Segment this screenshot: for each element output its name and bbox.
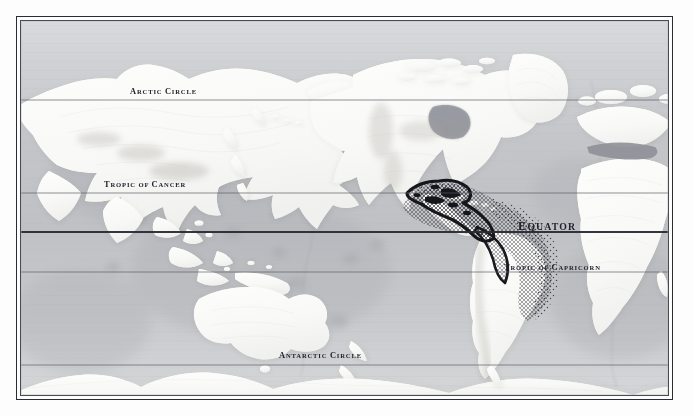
map-page: ARCTIC CIRCLE TROPIC OF CANCER EQUATOR T…: [0, 0, 693, 416]
map-neatline-outer: [16, 16, 673, 400]
